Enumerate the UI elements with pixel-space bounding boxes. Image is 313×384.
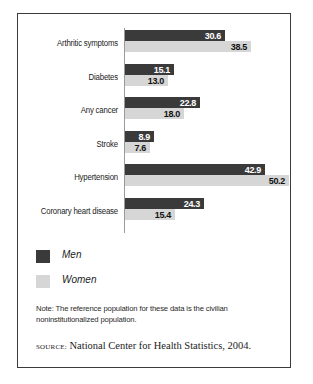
legend-swatch: [36, 250, 50, 263]
bar-group: Coronary heart disease24.315.4: [18, 198, 292, 226]
bar-value-label: 24.3: [184, 199, 200, 209]
source-text: National Center for Health Statistics, 2…: [69, 340, 251, 351]
chart-legend: MenWomen: [36, 248, 236, 298]
legend-item: Women: [36, 273, 236, 298]
source-kicker: source:: [36, 343, 67, 351]
chart-source: source: National Center for Health Stati…: [36, 340, 276, 351]
bar-value-label: 15.1: [154, 65, 170, 75]
bar-men: 8.9: [125, 131, 154, 142]
bar-value-label: 13.0: [148, 76, 164, 86]
legend-label: Women: [62, 274, 96, 285]
bar-chart: Arthritic symptoms30.638.5Diabetes15.113…: [18, 14, 292, 236]
bar-value-label: 22.8: [180, 98, 196, 108]
bar-women: 7.6: [125, 142, 150, 153]
bar-men: 24.3: [125, 198, 204, 209]
chart-note: Note: The reference population for these…: [36, 303, 264, 325]
bar-group: Hypertension42.950.2: [18, 164, 292, 192]
bar-women: 13.0: [125, 75, 168, 86]
bar-men: 15.1: [125, 64, 174, 75]
category-label: Any cancer: [26, 105, 118, 115]
legend-item: Men: [36, 248, 236, 273]
bar-group: Diabetes15.113.0: [18, 64, 292, 92]
category-label: Stroke: [26, 139, 118, 149]
bar-women: 15.4: [125, 209, 175, 220]
bar-women: 18.0: [125, 108, 184, 119]
bar-group: Any cancer22.818.0: [18, 97, 292, 125]
bar-value-label: 7.6: [134, 143, 146, 153]
category-label: Hypertension: [26, 172, 118, 182]
bar-women: 38.5: [125, 41, 251, 52]
category-label: Arthritic symptoms: [26, 38, 118, 48]
bar-value-label: 38.5: [231, 42, 247, 52]
figure-frame: Arthritic symptoms30.638.5Diabetes15.113…: [17, 13, 291, 368]
legend-swatch: [36, 275, 50, 288]
legend-label: Men: [62, 249, 81, 260]
bar-value-label: 8.9: [138, 132, 150, 142]
bar-men: 22.8: [125, 97, 200, 108]
bar-group: Stroke8.97.6: [18, 131, 292, 159]
bar-women: 50.2: [125, 175, 289, 186]
bar-men: 42.9: [125, 164, 265, 175]
bar-value-label: 50.2: [269, 176, 285, 186]
bar-value-label: 15.4: [155, 210, 171, 220]
category-label: Diabetes: [26, 72, 118, 82]
bar-value-label: 18.0: [164, 109, 180, 119]
category-label: Coronary heart disease: [26, 206, 118, 216]
bar-men: 30.6: [125, 30, 225, 41]
bar-rect: [125, 175, 289, 186]
bar-value-label: 30.6: [205, 31, 221, 41]
bar-group: Arthritic symptoms30.638.5: [18, 30, 292, 58]
bar-value-label: 42.9: [245, 165, 261, 175]
